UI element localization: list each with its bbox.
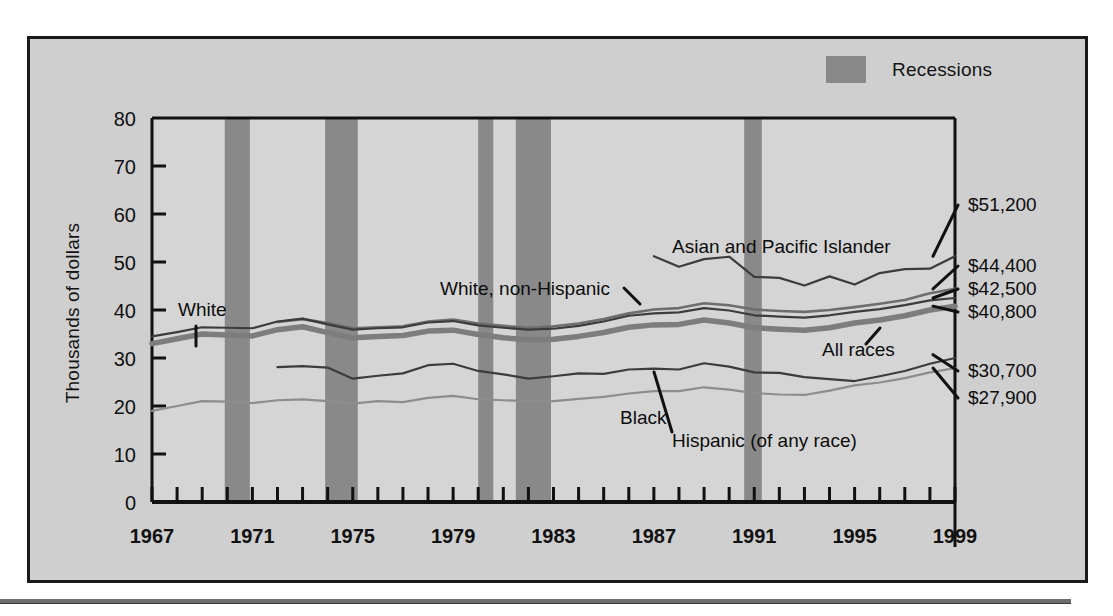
x-tick-label-1975: 1975 <box>331 525 376 547</box>
y-tick-label-70: 70 <box>114 156 136 178</box>
x-tick-label-1967: 1967 <box>130 525 175 547</box>
x-tick-label-1987: 1987 <box>632 525 677 547</box>
annot-white-non-hispanic: White, non-Hispanic <box>440 278 610 299</box>
y-tick-label-80: 80 <box>114 108 136 130</box>
y-tick-label-10: 10 <box>114 444 136 466</box>
y-tick-label-30: 30 <box>114 348 136 370</box>
y-tick-label-60: 60 <box>114 204 136 226</box>
annot-black: Black <box>620 407 667 428</box>
chart-figure: Recessions Thousands of dollars 01020304… <box>0 0 1113 616</box>
recession-band-0 <box>225 118 250 502</box>
hispanic-value: $30,700 <box>968 360 1037 381</box>
annot-hispanic: Hispanic (of any race) <box>672 430 857 451</box>
annot-white: White <box>178 299 227 320</box>
recession-band-3 <box>516 118 551 502</box>
recession-band-2 <box>478 118 493 502</box>
annot-all-races: All races <box>822 339 895 360</box>
asian-value: $51,200 <box>968 194 1037 215</box>
white-nonhispanic-value: $44,400 <box>968 255 1037 276</box>
y-tick-label-40: 40 <box>114 300 136 322</box>
white-value: $42,500 <box>968 278 1037 299</box>
y-tick-label-50: 50 <box>114 252 136 274</box>
annot-asian: Asian and Pacific Islander <box>672 236 891 257</box>
x-tick-label-1979: 1979 <box>431 525 476 547</box>
black-value: $27,900 <box>968 387 1037 408</box>
y-tick-label-20: 20 <box>114 396 136 418</box>
x-tick-label-1995: 1995 <box>832 525 877 547</box>
footer-rule <box>0 599 1071 604</box>
y-tick-label-0: 0 <box>125 492 136 514</box>
x-tick-label-1971: 1971 <box>230 525 275 547</box>
recession-band-1 <box>325 118 358 502</box>
x-tick-label-1991: 1991 <box>732 525 777 547</box>
chart-plot-svg: 0102030405060708019671971197519791983198… <box>0 0 1113 616</box>
all-races-value: $40,800 <box>968 301 1037 322</box>
x-tick-label-1983: 1983 <box>531 525 576 547</box>
